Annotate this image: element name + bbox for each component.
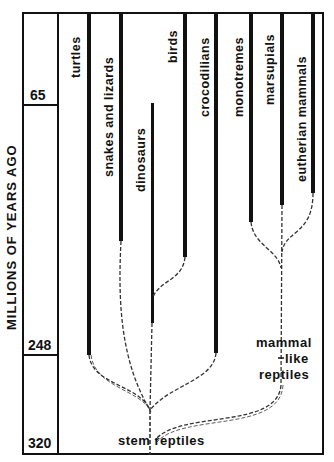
line-eutherian <box>282 193 313 252</box>
label-mammal-like-3: reptiles <box>259 368 309 381</box>
line-turtles <box>89 355 150 410</box>
line-snakes <box>120 241 150 410</box>
line-birds <box>153 257 185 297</box>
line-crocodilians <box>150 353 216 410</box>
label-stem-reptiles: stem reptiles <box>118 434 205 447</box>
label-mammal-like-1: mammal <box>256 336 312 349</box>
line-dinosaurs <box>150 323 152 410</box>
ancestry-lines <box>0 0 334 462</box>
label-mammal-like-2: like <box>285 352 309 365</box>
line-monotremes <box>251 222 281 268</box>
